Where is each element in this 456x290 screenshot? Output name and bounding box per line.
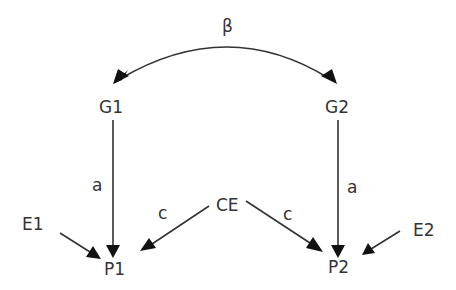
node-ce: CE xyxy=(216,195,239,215)
edge-ce-p2 xyxy=(246,201,310,243)
label-c-right: c xyxy=(283,204,292,224)
arrowhead-to-g1-tip xyxy=(113,69,129,84)
node-e1: E1 xyxy=(22,214,44,234)
edge-e1-p1 xyxy=(60,233,90,252)
label-a-right: a xyxy=(347,177,357,197)
node-p1: P1 xyxy=(104,259,125,279)
arrowhead-g1-p1 xyxy=(106,245,120,258)
label-c-left: c xyxy=(158,203,167,223)
label-beta: β xyxy=(222,16,233,36)
node-g2: G2 xyxy=(325,97,349,117)
edge-g1-g2-beta xyxy=(120,47,330,79)
path-diagram: β G1 G2 CE E1 E2 P1 P2 a a c c xyxy=(0,0,456,290)
arrowhead-e1-p1 xyxy=(86,246,101,259)
arrowhead-to-g2 xyxy=(321,69,337,84)
arrowhead-e2-p2 xyxy=(362,243,375,255)
edge-e2-p2 xyxy=(371,231,400,249)
node-p2: P2 xyxy=(328,257,349,277)
arrowhead-ce-p1 xyxy=(140,238,156,251)
node-g1: G1 xyxy=(99,97,123,117)
label-a-left: a xyxy=(92,175,102,195)
arrowhead-ce-p2 xyxy=(306,237,323,252)
node-e2: E2 xyxy=(413,220,435,240)
